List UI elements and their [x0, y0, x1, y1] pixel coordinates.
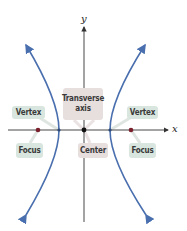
focus-left-point: [36, 128, 41, 133]
vertex-left-point: [57, 128, 60, 131]
x-axis-label: x: [172, 123, 178, 134]
vertex-right-label: Vertex: [127, 106, 158, 119]
y-axis-label: y: [81, 13, 87, 24]
vertex-left-label: Vertex: [12, 106, 45, 119]
focus-right-label: Focus: [129, 143, 156, 158]
center-label: Center: [78, 143, 108, 158]
transverse-axis-label: Transverse axis: [63, 88, 103, 120]
focus-right-point: [129, 128, 134, 133]
focus-left-label: Focus: [16, 143, 43, 158]
vertex-right-point: [108, 128, 111, 131]
center-point: [82, 128, 87, 133]
